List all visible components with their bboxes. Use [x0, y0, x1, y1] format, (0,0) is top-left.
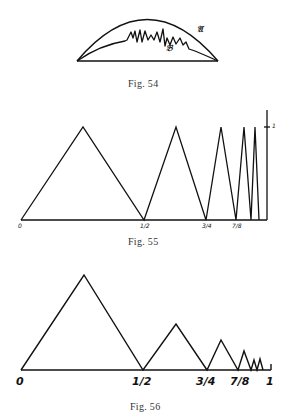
fig56-label-one: 1: [266, 375, 274, 388]
fig55-label-three-quarters: 3/4: [202, 222, 212, 229]
fig56-drawing: [21, 275, 271, 370]
figures-canvas: [0, 0, 291, 419]
fig54-label-A: 𝔄: [197, 24, 203, 35]
fig55-label-0: 0: [18, 222, 22, 229]
fig55-caption: Fig. 55: [128, 236, 158, 247]
fig56-caption: Fig. 56: [130, 401, 160, 412]
fig54-label-B: 𝔅: [166, 43, 172, 54]
fig55-label-seven-eighths: 7/8: [232, 222, 242, 229]
fig55-label-one: 1: [272, 122, 276, 129]
fig55-triangles: [21, 127, 259, 220]
fig56-triangles: [21, 275, 263, 370]
fig56-label-0: 0: [16, 375, 24, 388]
fig56-label-seven-eighths: 7/8: [230, 375, 249, 388]
fig55-label-half: 1/2: [140, 222, 150, 229]
fig56-label-three-quarters: 3/4: [196, 375, 215, 388]
fig55-drawing: [21, 110, 270, 220]
fig54-caption: Fig. 54: [128, 78, 158, 89]
fig56-label-half: 1/2: [132, 375, 151, 388]
